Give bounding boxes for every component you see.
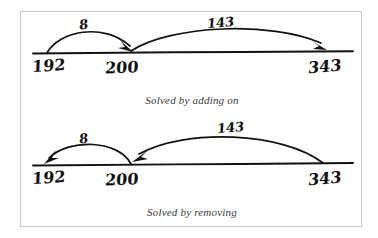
jump-label-8-removing: 8 [79,131,88,145]
panel-adding-on: 192 200 343 8 143 Solved by adding on [21,12,363,120]
tick-label-192-removing: 192 [32,169,66,187]
jump-label-143-adding-on: 143 [207,15,235,30]
tick-label-192-adding-on: 192 [32,57,66,75]
tick-label-343-adding-on: 343 [307,57,341,76]
number-line-removing [33,163,353,166]
jump-label-8-adding-on: 8 [79,17,88,31]
arrowhead-left-200-removing [132,150,148,162]
caption-removing: Solved by removing [21,206,363,218]
figure-root: 192 200 343 8 143 Solved by adding on 19… [0,0,378,238]
jump-label-143-removing: 143 [217,120,245,135]
jump-arc-8-adding-on [47,32,130,53]
jump-arc-8-removing [49,144,131,164]
tick-label-200-adding-on: 200 [104,59,139,76]
tick-label-343-removing: 343 [307,169,341,188]
number-line-adding-on [33,51,353,53]
jump-arc-143-adding-on [131,29,321,51]
jump-arc-143-removing [139,137,323,163]
panel-removing: 192 200 343 8 143 Solved by removing [21,120,363,228]
figure-frame: 192 200 343 8 143 Solved by adding on 19… [20,11,362,227]
caption-adding-on: Solved by adding on [21,94,363,106]
tick-label-200-removing: 200 [104,171,139,188]
